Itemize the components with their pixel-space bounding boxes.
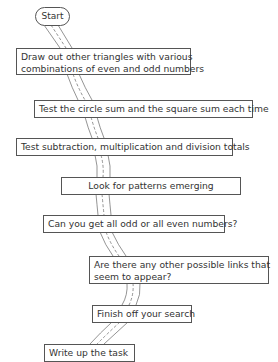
step-6-line-1: Are there any other possible links that xyxy=(94,259,264,271)
step-8-write-up: Write up the task xyxy=(44,344,135,362)
step-1-draw-triangles: Draw out other triangles with various co… xyxy=(16,48,191,75)
step-5-line-1: Can you get all odd or all even numbers? xyxy=(48,218,220,230)
step-7-finish-search: Finish off your search xyxy=(92,305,192,323)
step-1-line-2: combinations of even and odd numbers xyxy=(21,63,186,75)
step-4-line-1: Look for patterns emerging xyxy=(66,180,236,192)
step-3-test-operations: Test subtraction, multiplication and div… xyxy=(16,138,233,156)
step-6-other-links-question: Are there any other possible links that … xyxy=(89,256,269,284)
start-node: Start xyxy=(35,7,70,26)
step-3-line-1: Test subtraction, multiplication and div… xyxy=(21,141,228,153)
step-4-look-for-patterns: Look for patterns emerging xyxy=(61,177,241,195)
step-2-test-sums: Test the circle sum and the square sum e… xyxy=(34,100,253,118)
step-6-line-2: seem to appear? xyxy=(94,271,264,283)
step-5-odd-even-question: Can you get all odd or all even numbers? xyxy=(43,215,225,233)
step-2-line-1: Test the circle sum and the square sum e… xyxy=(39,103,248,115)
step-7-line-1: Finish off your search xyxy=(97,308,187,320)
step-1-line-1: Draw out other triangles with various xyxy=(21,51,186,63)
step-8-line-1: Write up the task xyxy=(49,347,130,359)
